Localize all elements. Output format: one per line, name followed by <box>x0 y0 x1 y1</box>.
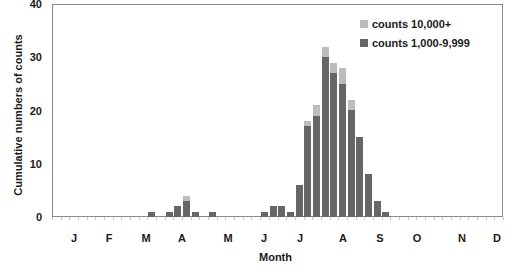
bar-segment-1000-9999 <box>356 137 363 217</box>
x-tick-mark <box>477 217 478 220</box>
x-tick-label: F <box>99 232 119 244</box>
x-tick-mark <box>503 217 504 220</box>
x-tick-mark <box>338 217 339 220</box>
bar-segment-1000-9999 <box>339 84 346 217</box>
stacked-bar-chart: Cumulative numbers of counts 010203040 J… <box>0 0 512 277</box>
bar <box>296 185 303 217</box>
legend: counts 10,000+ counts 1,000-9,999 <box>360 14 470 52</box>
bar-segment-1000-9999 <box>330 73 337 217</box>
bar <box>304 121 311 217</box>
x-tick-mark <box>165 217 166 220</box>
x-tick-label: S <box>370 232 390 244</box>
bar-segment-1000-9999 <box>270 206 277 217</box>
legend-label: counts 1,000-9,999 <box>372 37 470 49</box>
legend-item-10000-plus: counts 10,000+ <box>360 14 470 33</box>
x-tick-mark <box>399 217 400 220</box>
x-tick-label: J <box>290 232 310 244</box>
x-tick-mark <box>52 217 53 220</box>
bar-segment-10000-plus <box>322 47 329 58</box>
x-tick-mark <box>304 217 305 220</box>
x-tick-label: O <box>407 232 427 244</box>
x-tick-mark <box>286 217 287 220</box>
bar-segment-1000-9999 <box>382 212 389 217</box>
bar-segment-10000-plus <box>339 68 346 84</box>
x-tick-mark <box>182 217 183 220</box>
x-tick-mark <box>364 217 365 220</box>
x-tick-mark <box>312 217 313 220</box>
bar <box>209 212 216 217</box>
x-tick-mark <box>442 217 443 220</box>
y-tick-label: 40 <box>12 0 42 10</box>
bar-segment-1000-9999 <box>348 110 355 217</box>
x-tick-mark <box>382 217 383 220</box>
bar-segment-1000-9999 <box>322 57 329 217</box>
legend-swatch-dark <box>360 39 368 47</box>
x-tick-label: D <box>487 232 507 244</box>
x-tick-mark <box>199 217 200 220</box>
x-tick-mark <box>69 217 70 220</box>
bar <box>166 212 173 217</box>
bar <box>365 174 372 217</box>
bar-segment-1000-9999 <box>278 206 285 217</box>
x-tick-mark <box>434 217 435 220</box>
x-tick-mark <box>416 217 417 220</box>
bar-segment-1000-9999 <box>296 185 303 217</box>
bar-segment-1000-9999 <box>192 212 199 217</box>
x-tick-mark <box>217 217 218 220</box>
bar <box>148 212 155 217</box>
y-tick-label: 0 <box>12 211 42 223</box>
x-tick-mark <box>321 217 322 220</box>
bar <box>174 206 181 217</box>
x-tick-mark <box>269 217 270 220</box>
x-tick-mark <box>139 217 140 220</box>
x-tick-mark <box>78 217 79 220</box>
x-tick-mark <box>390 217 391 220</box>
bar-segment-10000-plus <box>313 105 320 116</box>
x-tick-label: M <box>218 232 238 244</box>
x-tick-mark <box>113 217 114 220</box>
bar-segment-1000-9999 <box>148 212 155 217</box>
x-tick-mark <box>486 217 487 220</box>
bar <box>183 196 190 217</box>
bar-segment-1000-9999 <box>304 126 311 217</box>
x-tick-mark <box>373 217 374 220</box>
bar <box>339 68 346 217</box>
bar <box>348 100 355 217</box>
bar <box>356 137 363 217</box>
x-tick-mark <box>104 217 105 220</box>
x-tick-label: J <box>254 232 274 244</box>
x-tick-mark <box>147 217 148 220</box>
x-tick-mark <box>121 217 122 220</box>
x-tick-mark <box>87 217 88 220</box>
x-tick-label: M <box>136 232 156 244</box>
x-tick-mark <box>251 217 252 220</box>
bar <box>192 212 199 217</box>
x-tick-mark <box>191 217 192 220</box>
bar <box>270 206 277 217</box>
bar-segment-1000-9999 <box>183 201 190 217</box>
x-tick-mark <box>494 217 495 220</box>
x-tick-mark <box>347 217 348 220</box>
bar-segment-1000-9999 <box>174 206 181 217</box>
bar-segment-1000-9999 <box>261 212 268 217</box>
x-tick-mark <box>173 217 174 220</box>
legend-item-1000-9999: counts 1,000-9,999 <box>360 33 470 52</box>
bar-segment-1000-9999 <box>287 212 294 217</box>
x-tick-label: N <box>452 232 472 244</box>
y-tick-label: 10 <box>12 158 42 170</box>
bar <box>278 206 285 217</box>
x-tick-mark <box>278 217 279 220</box>
x-tick-mark <box>243 217 244 220</box>
x-tick-label: J <box>64 232 84 244</box>
bar <box>261 212 268 217</box>
legend-swatch-light <box>360 20 368 28</box>
bar-segment-1000-9999 <box>166 212 173 217</box>
bar-segment-1000-9999 <box>313 116 320 217</box>
legend-label: counts 10,000+ <box>372 18 451 30</box>
bar-segment-1000-9999 <box>374 201 381 217</box>
bar <box>382 212 389 217</box>
x-tick-mark <box>61 217 62 220</box>
x-tick-mark <box>408 217 409 220</box>
bar <box>313 105 320 217</box>
bar-segment-1000-9999 <box>365 174 372 217</box>
